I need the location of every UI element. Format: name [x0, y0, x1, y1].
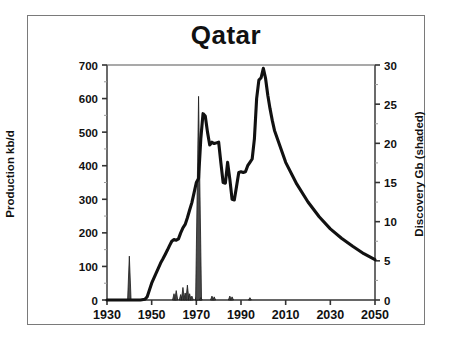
left-tick-label: 500	[79, 127, 98, 139]
production-curve	[107, 68, 375, 300]
chart-plot: 0100200300400500600700051015202530193019…	[27, 15, 425, 325]
left-tick-label: 400	[79, 160, 98, 172]
discovery-spike	[190, 296, 193, 300]
discovery-spike	[213, 297, 216, 300]
discovery-spike	[175, 291, 178, 300]
x-tick-label: 1930	[93, 308, 121, 322]
left-tick-label: 600	[79, 93, 98, 105]
left-tick-label: 700	[79, 60, 98, 72]
x-tick-label: 2010	[272, 308, 300, 322]
x-tick-label: 1950	[138, 308, 166, 322]
right-tick-label: 10	[384, 216, 397, 228]
discovery-spike	[231, 297, 234, 300]
x-tick-label: 1970	[182, 308, 210, 322]
right-tick-label: 20	[384, 138, 397, 150]
x-tick-label: 1990	[227, 308, 255, 322]
right-tick-label: 0	[384, 295, 390, 307]
right-tick-label: 30	[384, 60, 397, 72]
right-tick-label: 15	[384, 177, 397, 189]
left-tick-label: 0	[92, 295, 98, 307]
left-axis-title: Production kb/d	[4, 130, 16, 218]
right-tick-label: 25	[384, 99, 397, 111]
left-tick-label: 100	[79, 261, 98, 273]
x-tick-label: 2050	[361, 308, 389, 322]
discovery-spike	[128, 256, 131, 300]
left-tick-label: 300	[79, 194, 98, 206]
left-tick-label: 200	[79, 227, 98, 239]
figure-container: Qatar Production kb/d Discovery Gb (shad…	[0, 0, 454, 341]
discovery-spike	[249, 298, 252, 300]
x-tick-label: 2030	[316, 308, 344, 322]
right-tick-label: 5	[384, 255, 391, 267]
